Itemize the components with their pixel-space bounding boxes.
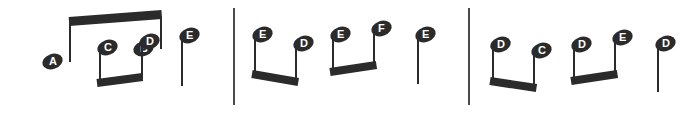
note-letter-label: C bbox=[537, 45, 545, 56]
note-letter-label: E bbox=[618, 32, 625, 43]
notehead: A bbox=[40, 50, 65, 71]
note-beam bbox=[251, 70, 298, 86]
note-letter-label: D bbox=[496, 39, 504, 50]
music-notation-staff: ABCDEEDEFEDCDED bbox=[0, 0, 686, 119]
note-beam bbox=[570, 70, 617, 85]
note-letter-label: D bbox=[661, 38, 669, 49]
note-stem bbox=[69, 21, 71, 62]
barline bbox=[468, 8, 470, 105]
note-letter-label: E bbox=[258, 29, 265, 40]
note-letter-label: E bbox=[185, 30, 192, 41]
note-letter-label: F bbox=[378, 23, 385, 34]
barline bbox=[233, 8, 235, 105]
note-beam bbox=[489, 77, 536, 92]
note-letter-label: A bbox=[48, 56, 56, 67]
note-stem bbox=[160, 16, 162, 49]
note-beam bbox=[329, 61, 376, 76]
note-letter-label: C bbox=[103, 42, 111, 53]
note-beam bbox=[96, 73, 143, 87]
note-letter-label: D bbox=[145, 36, 153, 47]
note-letter-label: D bbox=[577, 39, 585, 50]
note-beam bbox=[69, 10, 163, 26]
note-letter-label: E bbox=[336, 29, 343, 40]
note-letter-label: D bbox=[299, 38, 307, 49]
note-letter-label: E bbox=[421, 29, 428, 40]
